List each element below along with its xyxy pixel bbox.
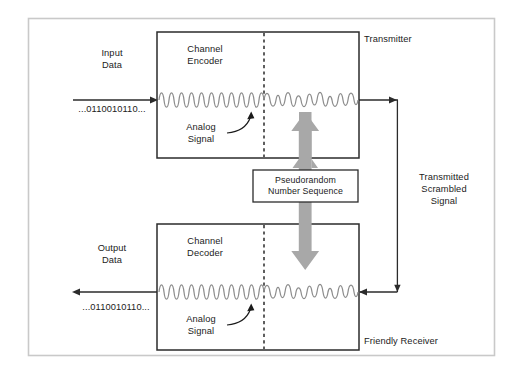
channel-decoder-label-line2: Decoder — [166, 248, 244, 259]
input-data-label-line1: Input — [76, 48, 148, 59]
transmitted-signal-label-line3: Signal — [401, 196, 487, 207]
receiver-section-label: Friendly Receiver — [364, 336, 438, 347]
input-data-bit-sequence: ...0110010110... — [66, 104, 158, 115]
channel-encoder-label-line2: Encoder — [166, 56, 244, 67]
output-data-label-line1: Output — [76, 243, 148, 254]
input-data-label-line2: Data — [76, 60, 148, 71]
output-data-label-line2: Data — [76, 255, 148, 266]
transmitted-signal-label-line2: Scrambled — [401, 184, 487, 195]
output-data-bit-sequence: ...0110010110... — [70, 302, 162, 313]
decoder-analog-signal-label-line2: Signal — [174, 326, 228, 337]
channel-decoder-label-line1: Channel — [166, 236, 244, 247]
transmitter-section-label: Transmitter — [364, 34, 412, 45]
encoder-analog-signal-label-line1: Analog — [174, 122, 228, 133]
channel-encoder-label-line1: Channel — [166, 44, 244, 55]
prns-label-line1: Pseudorandom — [253, 175, 358, 186]
decoder-analog-signal-label-line1: Analog — [174, 314, 228, 325]
encoder-analog-signal-label-line2: Signal — [174, 134, 228, 145]
transmitted-signal-label-line1: Transmitted — [401, 172, 487, 183]
prns-label-line2: Number Sequence — [253, 186, 358, 197]
figure-canvas: Transmitter Channel Encoder Input Data .… — [0, 0, 522, 378]
